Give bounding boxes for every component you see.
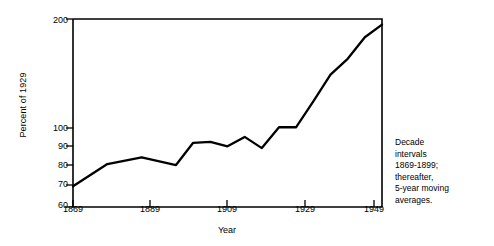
y-axis-title: Percent of 1929: [18, 45, 28, 165]
x-tick-label: 1929: [285, 204, 325, 214]
annotation-line: 1869-1899;: [395, 160, 490, 172]
x-tick-label: 1889: [130, 204, 170, 214]
x-axis-title: Year: [72, 225, 382, 235]
plot-border: [73, 19, 382, 207]
y-tick-label: 90: [38, 142, 68, 151]
x-tick-label: 1909: [207, 204, 247, 214]
y-tick-label: 80: [38, 161, 68, 170]
annotation-line: intervals: [395, 149, 490, 161]
y-tick-label: 70: [38, 180, 68, 189]
axis-frame: [73, 19, 382, 207]
data-series-line: [73, 25, 382, 187]
annotation-line: averages.: [395, 195, 490, 207]
annotation-line: 5-year moving: [395, 183, 490, 195]
x-tick-label: 1949: [354, 204, 394, 214]
chart-figure: Percent of 1929 200 100 90 80 70 60 1: [0, 0, 494, 246]
y-tick-label: 200: [38, 16, 68, 25]
annotation-line: Decade: [395, 137, 490, 149]
annotation-line: thereafter,: [395, 172, 490, 184]
x-tick-label: 1869: [53, 204, 93, 214]
chart-annotation: Decade intervals 1869-1899; thereafter, …: [395, 137, 490, 207]
y-tick-label: 100: [38, 124, 68, 133]
